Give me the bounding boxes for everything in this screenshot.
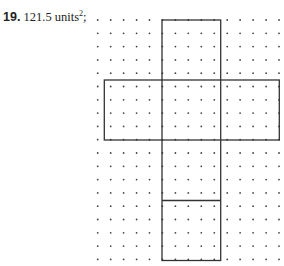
grid-dot — [213, 205, 215, 207]
grid-dot — [175, 59, 177, 61]
grid-dot — [265, 259, 267, 261]
grid-dot — [110, 179, 112, 181]
grid-dot — [200, 59, 202, 61]
grid-dot — [252, 112, 254, 114]
grid-dot — [175, 219, 177, 221]
grid-dot — [175, 99, 177, 101]
grid-dot — [213, 126, 215, 128]
grid-dot — [149, 46, 151, 48]
grid-dot — [136, 205, 138, 207]
grid-dot — [200, 179, 202, 181]
grid-dot — [239, 205, 241, 207]
grid-dot — [123, 179, 125, 181]
grid-dot — [123, 112, 125, 114]
grid-dot — [175, 165, 177, 167]
grid-dot — [213, 179, 215, 181]
grid-dot — [200, 219, 202, 221]
grid-dot — [226, 46, 228, 48]
grid-dot — [123, 32, 125, 34]
grid-dot — [123, 152, 125, 154]
grid-dot — [175, 112, 177, 114]
grid-dot — [123, 192, 125, 194]
grid-dot — [136, 32, 138, 34]
grid-dot — [265, 179, 267, 181]
grid-dot — [213, 245, 215, 247]
grid-dot — [239, 219, 241, 221]
grid-dot — [252, 32, 254, 34]
grid-dot — [136, 72, 138, 74]
grid-dot — [136, 192, 138, 194]
grid-dot — [265, 232, 267, 234]
grid-dot — [239, 99, 241, 101]
grid-dot — [187, 32, 189, 34]
grid-dot — [136, 232, 138, 234]
grid-dot — [252, 232, 254, 234]
grid-dot — [278, 19, 280, 21]
grid-dot — [149, 72, 151, 74]
grid-dot — [278, 152, 280, 154]
grid-dot — [265, 46, 267, 48]
grid-dot — [226, 59, 228, 61]
grid-dot — [226, 192, 228, 194]
grid-dot — [265, 72, 267, 74]
grid-dot — [226, 72, 228, 74]
grid-dot — [97, 19, 99, 21]
grid-dot — [239, 59, 241, 61]
grid-dot — [239, 232, 241, 234]
grid-dot — [187, 192, 189, 194]
grid-dot — [110, 192, 112, 194]
grid-dot — [110, 245, 112, 247]
grid-dot — [187, 205, 189, 207]
grid-dot — [278, 259, 280, 261]
grid-dot — [278, 245, 280, 247]
grid-dot — [226, 245, 228, 247]
grid-dot — [213, 232, 215, 234]
grid-dot — [187, 72, 189, 74]
grid-dot — [226, 19, 228, 21]
grid-dot — [187, 86, 189, 88]
grid-dot — [252, 205, 254, 207]
grid-dot — [226, 165, 228, 167]
grid-dot — [226, 259, 228, 261]
grid-dot — [149, 192, 151, 194]
grid-dot — [187, 152, 189, 154]
grid-dot — [187, 112, 189, 114]
grid-dot — [226, 205, 228, 207]
grid-dot — [136, 126, 138, 128]
grid-dot — [136, 259, 138, 261]
grid-dot — [149, 259, 151, 261]
grid-dot — [97, 192, 99, 194]
grid-dot — [278, 32, 280, 34]
grid-dot — [200, 192, 202, 194]
grid-dot — [123, 72, 125, 74]
grid-dot — [175, 46, 177, 48]
grid-dot — [278, 46, 280, 48]
grid-dot — [175, 152, 177, 154]
grid-dot — [175, 32, 177, 34]
grid-dot — [213, 165, 215, 167]
grid-dot — [213, 46, 215, 48]
grid-dot — [200, 72, 202, 74]
grid-dot — [149, 86, 151, 88]
grid-dot — [97, 112, 99, 114]
grid-dot — [252, 179, 254, 181]
grid-dot — [123, 126, 125, 128]
grid-dot — [239, 72, 241, 74]
grid-dot — [213, 219, 215, 221]
grid-dot — [239, 86, 241, 88]
grid-dot — [149, 245, 151, 247]
grid-dot — [110, 59, 112, 61]
grid-dot — [226, 232, 228, 234]
grid-dot — [239, 19, 241, 21]
grid-dot — [136, 219, 138, 221]
grid-dot — [136, 86, 138, 88]
horizontal-bar — [104, 80, 279, 140]
grid-dot — [110, 46, 112, 48]
grid-dot — [136, 99, 138, 101]
grid-dot — [239, 32, 241, 34]
grid-dot — [187, 165, 189, 167]
grid-dot — [110, 219, 112, 221]
grid-dot — [213, 86, 215, 88]
grid-dot — [97, 86, 99, 88]
grid-dot — [200, 126, 202, 128]
